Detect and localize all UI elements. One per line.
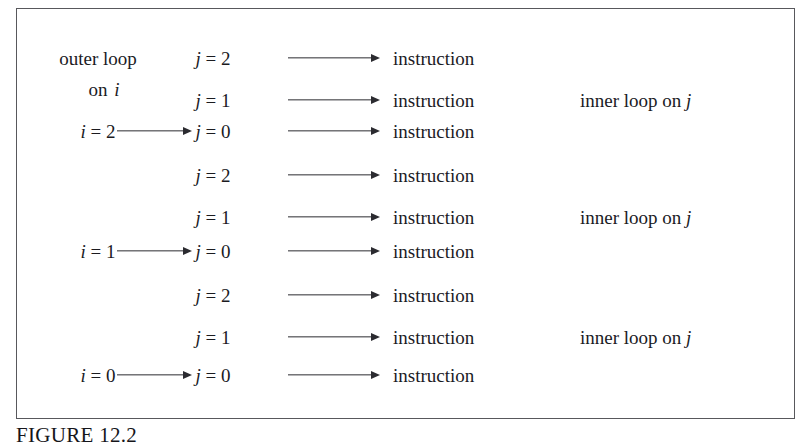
instruction-arrow: [288, 95, 380, 105]
equals-sign: =: [201, 241, 221, 262]
arrow-shaft: [117, 130, 184, 131]
row-j-label: j = 0: [196, 122, 231, 141]
row-j-label: j = 1: [196, 328, 231, 347]
arrow-shaft: [288, 130, 372, 131]
arrow-head-icon: [371, 213, 380, 221]
inner-loop-label: inner loop on j: [580, 208, 691, 227]
arrow-head-icon: [371, 371, 380, 379]
j-value: 0: [221, 121, 231, 142]
arrow-shaft: [117, 250, 184, 251]
equals-sign: =: [201, 165, 221, 186]
arrow-shaft: [288, 99, 372, 100]
arrow-head-icon: [183, 371, 192, 379]
outer-loop-arrow: [117, 246, 192, 256]
instruction-arrow: [288, 53, 380, 63]
inner-loop-text: inner loop on: [580, 90, 681, 111]
equals-sign: =: [86, 365, 106, 386]
arrow-shaft: [288, 374, 372, 375]
equals-sign: =: [201, 121, 221, 142]
row-j-label: j = 1: [196, 91, 231, 110]
arrow-shaft: [288, 250, 372, 251]
inner-loop-label: inner loop on j: [580, 328, 691, 347]
i-value: 0: [106, 365, 116, 386]
j-value: 2: [221, 48, 231, 69]
j-value: 0: [221, 241, 231, 262]
outer-loop-text: outer loop: [59, 48, 137, 69]
figure-caption: FIGURE 12.2: [16, 423, 137, 446]
row-j-label: j = 1: [196, 208, 231, 227]
row-i-label: i = 1: [81, 242, 116, 261]
equals-sign: =: [201, 48, 221, 69]
outer-loop-label-line1: outer loop: [59, 49, 137, 68]
equals-sign: =: [201, 285, 221, 306]
outer-loop-on-text: on: [88, 79, 107, 100]
instruction-arrow: [288, 126, 380, 136]
outer-loop-label-line2: on i: [88, 80, 119, 99]
equals-sign: =: [201, 90, 221, 111]
arrow-head-icon: [371, 171, 380, 179]
instruction-label: instruction: [393, 242, 474, 261]
j-value: 0: [221, 365, 231, 386]
instruction-label: instruction: [393, 122, 474, 141]
row-j-label: j = 2: [196, 49, 231, 68]
instruction-arrow: [288, 170, 380, 180]
outer-loop-arrow: [117, 370, 192, 380]
row-i-label: i = 0: [81, 366, 116, 385]
inner-loop-variable: j: [686, 90, 691, 111]
arrow-shaft: [288, 294, 372, 295]
instruction-arrow: [288, 370, 380, 380]
arrow-head-icon: [371, 333, 380, 341]
arrow-head-icon: [371, 291, 380, 299]
equals-sign: =: [86, 121, 106, 142]
equals-sign: =: [201, 365, 221, 386]
arrow-shaft: [288, 216, 372, 217]
row-j-label: j = 2: [196, 286, 231, 305]
row-j-label: j = 0: [196, 366, 231, 385]
row-j-label: j = 2: [196, 166, 231, 185]
arrow-head-icon: [371, 96, 380, 104]
arrow-shaft: [288, 174, 372, 175]
arrow-shaft: [288, 336, 372, 337]
instruction-arrow: [288, 212, 380, 222]
equals-sign: =: [201, 207, 221, 228]
j-value: 1: [221, 327, 231, 348]
j-value: 1: [221, 207, 231, 228]
instruction-label: instruction: [393, 91, 474, 110]
inner-loop-text: inner loop on: [580, 327, 681, 348]
equals-sign: =: [86, 241, 106, 262]
outer-loop-variable: i: [114, 79, 119, 100]
figure-caption-text: FIGURE 12.2: [16, 423, 137, 446]
row-i-label: i = 2: [81, 122, 116, 141]
j-value: 2: [221, 165, 231, 186]
instruction-label: instruction: [393, 286, 474, 305]
arrow-head-icon: [183, 247, 192, 255]
instruction-label: instruction: [393, 49, 474, 68]
instruction-label: instruction: [393, 166, 474, 185]
j-value: 2: [221, 285, 231, 306]
instruction-arrow: [288, 290, 380, 300]
arrow-shaft: [117, 374, 184, 375]
arrow-head-icon: [371, 127, 380, 135]
j-value: 1: [221, 90, 231, 111]
outer-loop-arrow: [117, 126, 192, 136]
instruction-arrow: [288, 246, 380, 256]
i-value: 1: [106, 241, 116, 262]
row-j-label: j = 0: [196, 242, 231, 261]
arrow-head-icon: [183, 127, 192, 135]
arrow-head-icon: [371, 247, 380, 255]
instruction-arrow: [288, 332, 380, 342]
instruction-label: instruction: [393, 366, 474, 385]
instruction-label: instruction: [393, 208, 474, 227]
i-value: 2: [106, 121, 116, 142]
equals-sign: =: [201, 327, 221, 348]
arrow-head-icon: [371, 54, 380, 62]
inner-loop-text: inner loop on: [580, 207, 681, 228]
inner-loop-variable: j: [686, 207, 691, 228]
inner-loop-variable: j: [686, 327, 691, 348]
arrow-shaft: [288, 57, 372, 58]
instruction-label: instruction: [393, 328, 474, 347]
inner-loop-label: inner loop on j: [580, 91, 691, 110]
